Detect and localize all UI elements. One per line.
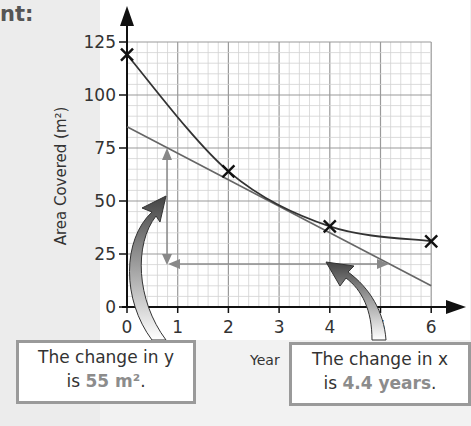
grid bbox=[127, 42, 431, 307]
callout-x-value: 4.4 years bbox=[342, 373, 431, 393]
x-axis-arrow-icon bbox=[446, 300, 466, 314]
callout-x-suffix: . bbox=[431, 373, 436, 393]
callout-y-prefix: is bbox=[66, 371, 85, 391]
callout-y-line2: is 55 m². bbox=[19, 369, 193, 393]
y-axis-arrow-icon bbox=[120, 6, 134, 26]
y-axis-title: Area Covered (m²) bbox=[52, 107, 70, 246]
x-tick-label: 6 bbox=[426, 317, 437, 337]
callout-pointer-y-icon bbox=[130, 196, 167, 340]
y-tick-label: 100 bbox=[84, 85, 116, 105]
callout-y-line1: The change in y bbox=[19, 345, 193, 369]
callout-y-value: 55 m² bbox=[85, 371, 140, 391]
arrow-left-icon bbox=[168, 259, 180, 269]
y-tick-label: 0 bbox=[105, 297, 116, 317]
y-tick-label: 75 bbox=[94, 138, 116, 158]
x-axis-title: Year bbox=[250, 352, 280, 368]
callout-x-line1: The change in x bbox=[292, 347, 468, 371]
callout-change-in-x: The change in x is 4.4 years. bbox=[289, 342, 471, 406]
x-tick-label: 2 bbox=[223, 317, 234, 337]
callout-x-line2: is 4.4 years. bbox=[292, 371, 468, 395]
y-tick-label: 50 bbox=[94, 191, 116, 211]
y-tick-label: 125 bbox=[84, 32, 116, 52]
x-tick-label: 3 bbox=[274, 317, 285, 337]
x-tick-label: 4 bbox=[324, 317, 335, 337]
x-tick-label: 0 bbox=[122, 317, 133, 337]
callout-x-prefix: is bbox=[323, 373, 342, 393]
callout-y-suffix: . bbox=[140, 371, 145, 391]
x-tick-label: 1 bbox=[172, 317, 183, 337]
y-tick-label: 25 bbox=[94, 244, 116, 264]
callout-change-in-y: The change in y is 55 m². bbox=[16, 340, 196, 404]
